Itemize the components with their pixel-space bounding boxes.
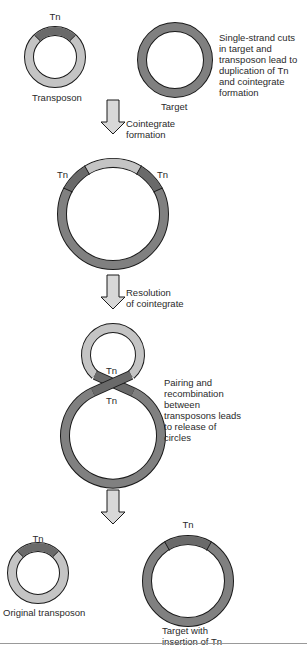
arrow-down-icon — [101, 490, 125, 524]
target-label: Target — [161, 101, 187, 112]
tn-label: Tn — [29, 533, 47, 544]
cointegrate-formation-label: Cointegrate formation — [126, 118, 175, 140]
tn-label-right: Tn — [157, 169, 168, 180]
tn-label-lower: Tn — [106, 395, 117, 406]
target-ring — [142, 27, 208, 93]
tn-label: Tn — [46, 11, 64, 22]
tn-label-left: Tn — [57, 169, 68, 180]
resolution-label: Resolution of cointegrate — [126, 287, 184, 309]
cointegrate-ring — [62, 163, 164, 265]
step1-note: Single-strand cuts in target and transpo… — [219, 32, 297, 98]
divider — [0, 643, 307, 644]
transposon-label: Transposon — [32, 92, 82, 103]
original-transposon-ring — [12, 547, 64, 599]
arrow-down-icon — [101, 100, 125, 134]
target-with-insertion-ring — [147, 540, 229, 622]
step3-note: Pairing and recombination between transp… — [164, 377, 241, 443]
transposon-ring — [29, 31, 81, 83]
tn-label: Tn — [179, 519, 197, 530]
arrow-down-icon — [101, 275, 125, 309]
tn-label-upper: Tn — [106, 365, 117, 376]
original-transposon-label: Original transposon — [3, 607, 85, 618]
